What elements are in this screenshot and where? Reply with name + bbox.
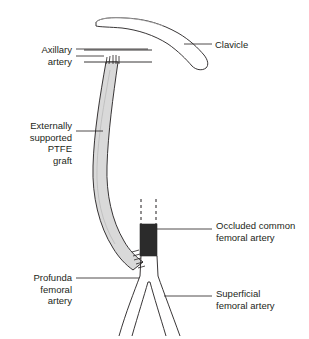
ptfe-graft-body: [93, 62, 143, 270]
occluded-segment: [140, 224, 157, 256]
label-ptfe-graft: Externally supported PTFE graft: [2, 120, 72, 166]
superficial-femoral-medial-wall: [150, 282, 166, 336]
common-femoral-trunk: [140, 256, 158, 276]
ptfe-graft-shape: [93, 62, 143, 270]
label-occluded-common-femoral-artery: Occluded common femoral artery: [216, 220, 308, 243]
label-axillary-artery: Axillary artery: [6, 44, 72, 67]
label-superficial-femoral-artery: Superficial femoral artery: [216, 288, 308, 311]
common-femoral-artery-dashed-walls: [141, 199, 156, 224]
profunda-femoral-lateral-wall: [119, 276, 140, 336]
femoral-bifurcation: [119, 276, 180, 336]
label-profunda-femoral-artery: Profunda femoral artery: [6, 272, 72, 307]
superficial-femoral-lateral-wall: [158, 276, 180, 336]
diagram-canvas: Axillary artery Externally supported PTF…: [0, 0, 309, 339]
label-clavicle: Clavicle: [215, 39, 295, 51]
